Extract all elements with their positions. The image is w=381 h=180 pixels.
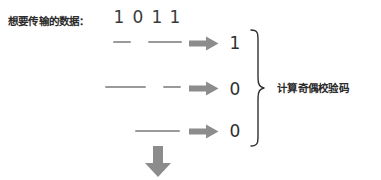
data-bit-3: 1 [168,7,182,27]
right-arrow-icon [189,124,219,139]
data-bit-0: 1 [112,7,126,27]
right-arrow-icon [189,36,219,51]
data-bit-1: 0 [131,7,145,27]
row-2-parity-result: 0 [228,79,242,99]
row-1-dash-a [113,41,131,43]
row-1-dash-b [148,41,182,43]
row-1-parity-result: 1 [228,33,242,53]
down-arrow-icon [144,146,172,178]
right-arrow-icon [189,81,219,96]
caption-text: 计算奇偶校验码 [277,80,349,95]
grouping-brace-icon [249,29,271,147]
row-3-parity-result: 0 [228,121,242,141]
row-2-dash-a [105,86,146,88]
page-title: 想要传输的数据： [8,13,90,28]
parity-check-diagram: 想要传输的数据： 1 0 1 1 1 0 0 计算奇偶校验码 [0,0,381,180]
data-bit-2: 1 [150,7,164,27]
row-2-dash-b [163,86,181,88]
row-3-dash-a [135,130,180,132]
